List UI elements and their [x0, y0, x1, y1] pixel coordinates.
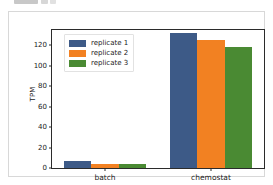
- x-tick-label: batch: [94, 174, 115, 182]
- legend-swatch: [69, 40, 86, 47]
- y-tick-mark: [49, 86, 52, 87]
- y-tick-mark: [49, 106, 52, 107]
- clipped-top-artifact: [14, 0, 56, 6]
- y-axis-title: TPM: [29, 86, 37, 101]
- figure-frame: TPM 020406080100120 batchchemostat repli…: [8, 11, 265, 177]
- y-tick-label: 120: [34, 42, 47, 49]
- bar: [225, 47, 253, 168]
- y-tick-mark: [49, 45, 52, 46]
- artifact-block-1: [14, 0, 38, 4]
- legend-swatch: [69, 50, 86, 57]
- legend-label: replicate 2: [91, 50, 128, 57]
- legend-swatch: [69, 60, 86, 67]
- legend-item: replicate 3: [69, 58, 128, 68]
- y-tick-mark: [49, 168, 52, 169]
- y-tick-label: 0: [43, 165, 47, 172]
- y-tick-label: 100: [34, 62, 47, 69]
- y-tick-label: 40: [38, 124, 47, 131]
- legend-item: replicate 2: [69, 48, 128, 58]
- legend-item: replicate 1: [69, 38, 128, 48]
- legend-label: replicate 1: [91, 40, 128, 47]
- bar: [197, 40, 225, 168]
- y-tick-mark: [49, 65, 52, 66]
- plot-area: 020406080100120 batchchemostat replicate…: [51, 29, 265, 169]
- x-tick-label: chemostat: [191, 174, 231, 182]
- y-tick-label: 80: [38, 83, 47, 90]
- legend: replicate 1replicate 2replicate 3: [64, 34, 134, 72]
- x-tick-mark: [211, 168, 212, 171]
- y-tick-mark: [49, 127, 52, 128]
- artifact-block-3: [50, 0, 56, 4]
- y-tick-label: 20: [38, 144, 47, 151]
- x-tick-mark: [105, 168, 106, 171]
- y-tick-mark: [49, 147, 52, 148]
- bar: [64, 161, 92, 168]
- legend-label: replicate 3: [91, 60, 128, 67]
- artifact-block-2: [41, 0, 48, 4]
- bar: [119, 164, 147, 168]
- y-tick-label: 60: [38, 103, 47, 110]
- bar: [170, 33, 198, 168]
